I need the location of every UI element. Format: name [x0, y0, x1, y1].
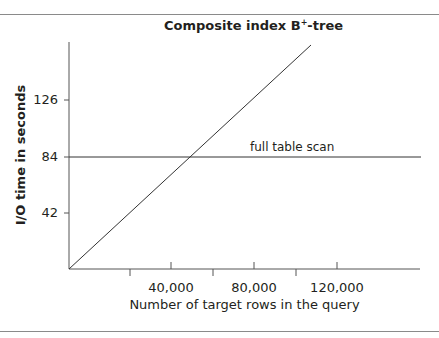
- y-tick-label-126: 126: [28, 92, 58, 107]
- x-tick-label-120000: 120,000: [302, 280, 372, 295]
- x-tick-label-40000: 40,000: [136, 280, 206, 295]
- y-tick-label-84: 84: [28, 149, 58, 164]
- full-table-scan-label: full table scan: [250, 140, 334, 154]
- x-axis-label: Number of target rows in the query: [69, 297, 420, 312]
- x-tick-label-80000: 80,000: [219, 280, 289, 295]
- y-tick-label-42: 42: [28, 205, 58, 220]
- y-axis-label: I/O time in seconds: [13, 85, 28, 225]
